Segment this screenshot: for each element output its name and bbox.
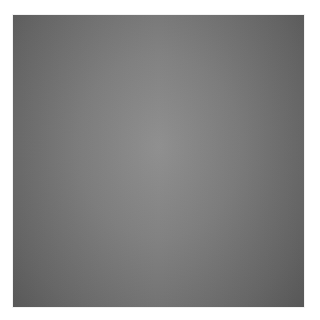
gray-gradient-square [13, 15, 304, 307]
